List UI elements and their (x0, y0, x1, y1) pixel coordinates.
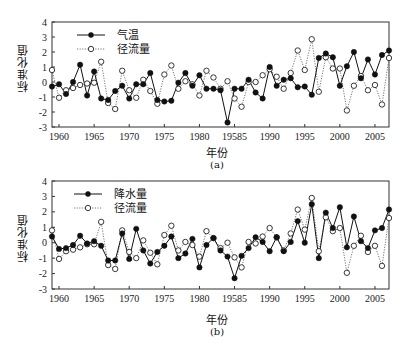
runoff-point (344, 108, 349, 113)
primary-point (63, 245, 68, 250)
primary-point (372, 72, 377, 77)
panel-a: -3-2-10123419601965197019751980195851990… (0, 0, 412, 174)
x-tick-label: 19585 (222, 131, 247, 142)
primary-point (309, 201, 314, 206)
runoff-point (309, 37, 314, 42)
primary-point (274, 235, 279, 240)
runoff-point (162, 232, 167, 237)
x-tick-label: 1975 (154, 131, 174, 142)
x-axis-label: 年份 (187, 144, 247, 160)
primary-point (302, 84, 307, 89)
runoff-point (274, 74, 279, 79)
runoff-point (344, 270, 349, 275)
primary-point (91, 69, 96, 74)
x-tick-label: 1995 (295, 293, 315, 304)
plot-frame (52, 22, 389, 127)
primary-point (56, 82, 61, 87)
x-tick-label: 1965 (84, 131, 104, 142)
x-tick-label: 1970 (119, 131, 139, 142)
y-axis-label: 标准化值 (16, 214, 32, 262)
runoff-point (260, 73, 265, 78)
primary-point (197, 265, 202, 270)
runoff-point (330, 66, 335, 71)
runoff-point (70, 85, 75, 90)
primary-point (70, 242, 75, 247)
primary-point (295, 218, 300, 223)
primary-point (337, 83, 342, 88)
primary-point (141, 248, 146, 253)
x-tick-label: 1970 (119, 293, 139, 304)
y-tick-label: -1 (39, 253, 47, 264)
runoff-point (267, 225, 272, 230)
runoff-point (239, 104, 244, 109)
x-tick-label: 19585 (222, 293, 247, 304)
runoff-point (288, 70, 293, 75)
primary-point (239, 253, 244, 258)
primary-point (176, 255, 181, 260)
x-tick-label: 1980 (189, 131, 209, 142)
runoff-point (379, 263, 384, 268)
x-axis-label: 年份 (187, 311, 247, 327)
primary-point (281, 77, 286, 82)
runoff-point (316, 249, 321, 254)
legend-open-circle-icon (85, 205, 90, 210)
primary-point (49, 84, 54, 89)
y-tick-label: 3 (42, 191, 47, 202)
primary-point (344, 245, 349, 250)
primary-point (323, 210, 328, 215)
runoff-point (302, 67, 307, 72)
primary-point (337, 205, 342, 210)
plot-frame (52, 181, 389, 289)
primary-point (288, 239, 293, 244)
runoff-point (288, 231, 293, 236)
y-tick-label: -3 (39, 122, 47, 133)
runoff-point (56, 256, 61, 261)
runoff-point (120, 68, 125, 73)
runoff-point (183, 239, 188, 244)
runoff-point (127, 88, 132, 93)
primary-point (316, 255, 321, 260)
x-tick-label: 1990 (260, 131, 280, 142)
primary-point (309, 92, 314, 97)
primary-point (295, 85, 300, 90)
primary-point (225, 254, 230, 259)
primary-point (330, 225, 335, 230)
runoff-point (351, 83, 356, 88)
y-tick-label: 4 (42, 176, 47, 187)
primary-point (204, 86, 209, 91)
primary-point (232, 276, 237, 281)
primary-point (98, 243, 103, 248)
x-tick-label: 1965 (84, 293, 104, 304)
primary-point (365, 57, 370, 62)
y-tick-label: 2 (42, 206, 47, 217)
runoff-point (232, 96, 237, 101)
x-tick-label: 1960 (49, 293, 69, 304)
primary-point (358, 76, 363, 81)
primary-point (204, 242, 209, 247)
primary-point (288, 76, 293, 81)
primary-point (246, 245, 251, 250)
primary-point (91, 238, 96, 243)
runoff-point (246, 239, 251, 244)
x-tick-label: 1980 (189, 293, 209, 304)
runoff-point (281, 86, 286, 91)
runoff-point (77, 245, 82, 250)
runoff-point (148, 88, 153, 93)
primary-point (372, 228, 377, 233)
runoff-point (302, 227, 307, 232)
primary-point (105, 97, 110, 102)
runoff-point (127, 249, 132, 254)
runoff-point (190, 242, 195, 247)
runoff-point (225, 240, 230, 245)
runoff-point (337, 66, 342, 71)
primary-point (211, 86, 216, 91)
y-tick-label: -2 (39, 268, 47, 279)
runoff-point (379, 102, 384, 107)
runoff-point (232, 255, 237, 260)
primary-point (155, 249, 160, 254)
primary-point (141, 82, 146, 87)
primary-point (379, 52, 384, 57)
runoff-point (253, 79, 258, 84)
runoff-point (155, 262, 160, 267)
runoff-point (134, 255, 139, 260)
